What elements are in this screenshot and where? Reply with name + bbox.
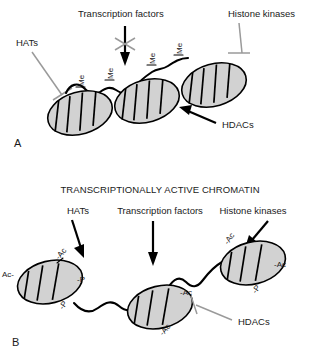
svg-text:Me: Me	[148, 52, 157, 64]
panel-a-modification-me-3: Me	[147, 52, 157, 65]
panel-a-label-hats: HATs	[16, 37, 38, 48]
panel-a-modification-me-4: Me	[174, 42, 184, 55]
panel-b-title: TRANSCRIPTIONALLY ACTIVE CHROMATIN	[60, 184, 259, 195]
panel-b-label-transcription-factors: Transcription factors	[117, 205, 203, 216]
svg-text:Me: Me	[106, 67, 115, 79]
panel-b-modification-p-n1-right: -P	[77, 275, 85, 284]
panel-a-label-transcription-factors: Transcription factors	[78, 8, 164, 19]
panel-a-label-histone-kinases: Histone kinases	[228, 8, 295, 19]
panel-b-modification-ac-n1-left: Ac-	[2, 270, 14, 279]
panel-b-letter: B	[12, 336, 19, 348]
panel-a-modification-me-2: Me	[105, 67, 115, 80]
svg-text:Me: Me	[77, 74, 86, 86]
panel-a-label-hdacs: HDACs	[222, 119, 254, 130]
svg-text:Me: Me	[175, 42, 184, 54]
panel-b-label-histone-kinases: Histone kinases	[219, 205, 286, 216]
chromatin-figure: HATs Transcription factors Histone kinas…	[0, 0, 320, 355]
panel-a-letter: A	[14, 137, 22, 149]
panel-b-modification-ac-n3-right: -Ac	[274, 260, 286, 269]
panel-b-label-hats: HATs	[67, 205, 89, 216]
panel-a-modification-me-1: Me	[76, 74, 86, 87]
panel-b-label-hdacs: HDACs	[238, 316, 270, 327]
panel-b-modification-ac-n2-right: -Ac	[180, 288, 192, 297]
